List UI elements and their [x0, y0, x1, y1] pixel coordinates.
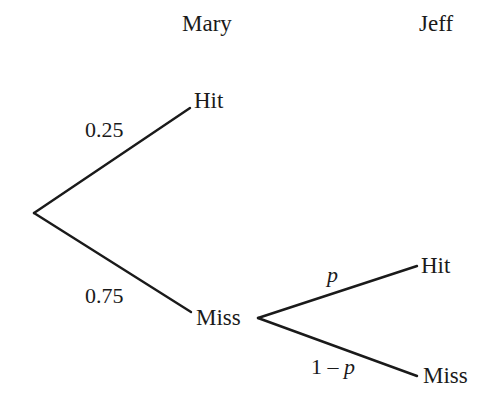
probability-tree-figure: Mary Jeff Hit Miss Hit Miss 0.25 0.75 p … — [0, 0, 489, 406]
edge-label-jeff-hit-probability: p — [327, 264, 338, 286]
edge-label-jeff-miss-variable: p — [344, 354, 355, 379]
edge-label-jeff-miss-probability: 1 – p — [311, 356, 355, 378]
node-jeff-miss: Miss — [423, 364, 468, 387]
edge-label-mary-miss-probability: 0.75 — [85, 285, 124, 307]
stage-header-jeff: Jeff — [419, 12, 453, 35]
node-jeff-hit: Hit — [421, 254, 450, 277]
node-mary-miss: Miss — [196, 306, 241, 329]
edge-label-mary-hit-probability: 0.25 — [85, 119, 124, 141]
stage-header-mary: Mary — [182, 12, 232, 35]
edge-label-jeff-miss-prefix: 1 – — [311, 354, 344, 379]
node-mary-hit: Hit — [194, 89, 223, 112]
tree-branch-lines — [0, 0, 489, 406]
